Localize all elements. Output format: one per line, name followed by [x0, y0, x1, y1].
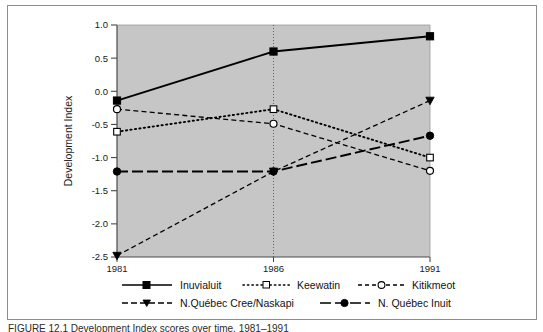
data-point-marker-open-circle: [270, 120, 277, 127]
data-point-marker-filled-square: [113, 97, 120, 104]
legend-marker-open-circle: [378, 282, 385, 289]
legend-marker-filled-square: [143, 282, 150, 289]
y-tick-label: -1.0: [92, 152, 108, 163]
y-tick-label: 1.0: [95, 19, 108, 30]
figure-root: 1.0 0.5 0.0 -0.5 -1.0 -1.5 -2.0 -2.5 Dev…: [0, 0, 543, 332]
legend-label-inuvialuit: Inuvialuit: [180, 279, 222, 291]
chart-legend: Inuvialuit Keewatin Kitikmeot N.Québec C…: [122, 279, 455, 309]
x-tick-label: 1981: [106, 263, 127, 274]
data-point-marker-open-square: [427, 154, 434, 161]
y-tick-label: -2.5: [92, 251, 108, 262]
data-point-marker-open-square: [270, 106, 277, 113]
y-axis-ticks: [111, 25, 117, 257]
legend-label-nquebec-inuit: N. Québec Inuit: [378, 297, 451, 309]
y-tick-label: -1.5: [92, 185, 108, 196]
data-point-marker-filled-circle: [270, 168, 277, 175]
x-axis-tick-labels: 1981 1986 1991: [106, 263, 440, 274]
y-tick-label: -0.5: [92, 119, 108, 130]
development-index-line-chart: 1.0 0.5 0.0 -0.5 -1.0 -1.5 -2.0 -2.5 Dev…: [0, 0, 543, 332]
legend-marker-filled-circle: [341, 299, 348, 306]
data-point-marker-open-circle: [114, 106, 121, 113]
data-point-marker-filled-square: [426, 33, 433, 40]
y-axis-tick-labels: 1.0 0.5 0.0 -0.5 -1.0 -1.5 -2.0 -2.5: [92, 19, 108, 262]
legend-label-kitikmeot: Kitikmeot: [412, 279, 455, 291]
legend-item-inuvialuit[interactable]: Inuvialuit: [122, 279, 222, 291]
data-point-marker-filled-square: [270, 48, 277, 55]
legend-item-kitikmeot[interactable]: Kitikmeot: [358, 279, 455, 291]
plot-area-background: [117, 25, 430, 257]
data-point-marker-filled-circle: [426, 132, 433, 139]
legend-item-nquebec-cree-naskapi[interactable]: N.Québec Cree/Naskapi: [122, 297, 294, 309]
x-tick-label: 1991: [419, 263, 440, 274]
y-axis-title: Development Index: [62, 95, 74, 186]
data-point-marker-open-square: [114, 128, 121, 135]
legend-marker-open-square: [263, 282, 270, 289]
y-tick-label: 0.0: [95, 86, 108, 97]
legend-item-keewatin[interactable]: Keewatin: [243, 279, 340, 291]
y-tick-label: 0.5: [95, 53, 108, 64]
legend-item-nquebec-inuit[interactable]: N. Québec Inuit: [320, 297, 451, 309]
x-axis-ticks: [117, 257, 430, 262]
x-tick-label: 1986: [263, 263, 284, 274]
legend-label-nquebec-cree-naskapi: N.Québec Cree/Naskapi: [180, 297, 294, 309]
legend-label-keewatin: Keewatin: [297, 279, 340, 291]
y-tick-label: -2.0: [92, 218, 108, 229]
figure-caption: FIGURE 12.1 Development Index scores ove…: [8, 323, 528, 332]
data-point-marker-filled-circle: [113, 168, 120, 175]
data-point-marker-open-circle: [427, 167, 434, 174]
